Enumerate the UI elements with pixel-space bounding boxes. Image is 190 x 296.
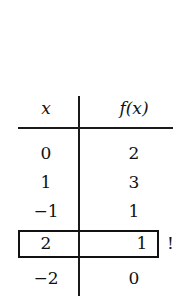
cell-fx-1: 3 — [110, 172, 158, 192]
cell-fx-2: 1 — [110, 201, 158, 221]
cell-x-4: −2 — [22, 268, 70, 288]
column-divider — [78, 96, 80, 296]
cell-x-3: 2 — [22, 233, 70, 253]
cell-x-2: −1 — [22, 201, 70, 221]
cell-fx-0: 2 — [110, 143, 158, 163]
cell-fx-3: 1 — [118, 233, 166, 253]
cell-fx-4: 0 — [110, 268, 158, 288]
header-fx: f(x) — [110, 98, 158, 118]
cell-x-1: 1 — [22, 172, 70, 192]
exclamation-mark: ! — [167, 233, 174, 253]
header-rule — [18, 127, 173, 129]
header-x: x — [22, 98, 70, 118]
cell-x-0: 0 — [22, 143, 70, 163]
